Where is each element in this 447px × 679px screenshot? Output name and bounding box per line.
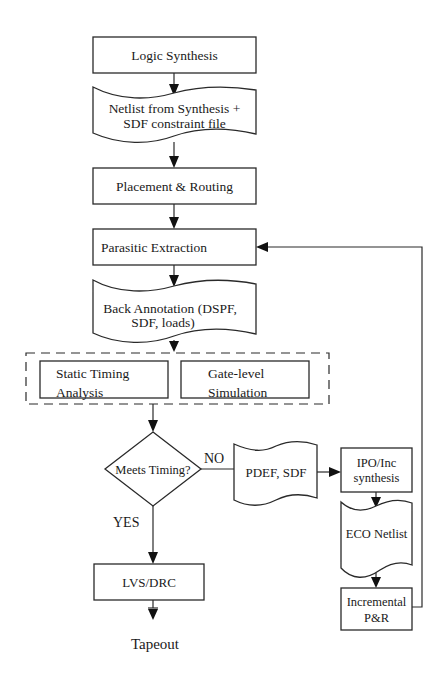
arrowhead-icon — [256, 242, 268, 252]
arrowhead-icon — [169, 341, 179, 352]
arrowhead-icon — [169, 156, 179, 168]
node-label: ECO Netlist — [346, 527, 408, 541]
node-label-line1: Back Annotation (DSPF, — [103, 301, 237, 316]
node-label-line2: SDF constraint file — [123, 116, 226, 131]
node-label: PDEF, SDF — [245, 465, 306, 480]
node-incremental-pr: Incremental P&R — [341, 588, 412, 630]
node-tapeout: Tapeout — [131, 636, 180, 652]
edge-label-no: NO — [204, 451, 224, 466]
node-label: Parasitic Extraction — [101, 240, 207, 255]
node-placement-routing: Placement & Routing — [93, 168, 256, 204]
node-label-line1: Gate-level — [208, 366, 264, 381]
node-logic-synthesis: Logic Synthesis — [93, 37, 256, 73]
node-label-line2: Simulation — [208, 385, 268, 400]
node-lvs-drc: LVS/DRC — [94, 564, 204, 600]
node-eco-netlist-document: ECO Netlist — [341, 500, 412, 577]
node-label-line1: Incremental — [347, 595, 407, 609]
arrowhead-icon — [169, 217, 179, 229]
node-label: Logic Synthesis — [131, 48, 218, 63]
edge-label-yes: YES — [113, 515, 139, 530]
node-label: LVS/DRC — [122, 575, 176, 590]
node-netlist-document: Netlist from Synthesis + SDF constraint … — [93, 87, 256, 142]
node-label-line1: Netlist from Synthesis + — [109, 101, 241, 116]
arrowhead-icon — [148, 552, 158, 564]
node-label-line2: synthesis — [354, 471, 400, 485]
arrowhead-icon — [371, 577, 381, 588]
node-meets-timing-decision: Meets Timing? — [105, 432, 201, 506]
node-label-line2: Analysis — [56, 385, 103, 400]
node-ipo-inc-synthesis: IPO/Inc synthesis — [341, 448, 412, 492]
node-label-line1: IPO/Inc — [357, 456, 397, 470]
node-back-annotation-document: Back Annotation (DSPF, SDF, loads) — [93, 280, 256, 342]
node-label-line2: SDF, loads) — [131, 315, 194, 330]
node-gate-level-simulation: Gate-level Simulation — [181, 361, 309, 400]
node-label: Meets Timing? — [115, 463, 191, 477]
node-label: Placement & Routing — [116, 179, 233, 194]
node-label-line2: P&R — [364, 611, 390, 625]
arrowhead-icon — [148, 420, 158, 432]
node-pdef-sdf-document: PDEF, SDF — [234, 442, 317, 506]
arrowhead-icon — [148, 609, 158, 620]
flowchart-canvas: Logic Synthesis Netlist from Synthesis +… — [0, 0, 447, 679]
node-static-timing-analysis: Static Timing Analysis — [40, 361, 168, 400]
node-parasitic-extraction: Parasitic Extraction — [93, 229, 256, 265]
arrowhead-icon — [329, 467, 341, 477]
node-label-line1: Static Timing — [56, 366, 129, 381]
